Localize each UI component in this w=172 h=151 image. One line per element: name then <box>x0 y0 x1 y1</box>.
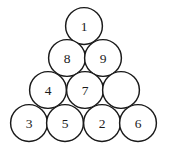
circle-label-2: 2 <box>99 116 106 131</box>
circle-label-3: 3 <box>26 116 33 131</box>
circle-label-8: 8 <box>64 51 71 66</box>
circle-label-6: 6 <box>135 116 142 131</box>
figure-root: 189473526 <box>0 0 172 151</box>
circle-label-4: 4 <box>45 83 52 98</box>
circle-row-1: 1 <box>66 8 103 45</box>
circle-row-4: 3526 <box>11 105 157 142</box>
circle-label-7: 7 <box>82 83 89 98</box>
circle-empty-r3-c3 <box>103 72 140 109</box>
circle-stack-diagram: 189473526 <box>0 0 172 151</box>
circle-label-1: 1 <box>81 19 88 34</box>
circle-label-5: 5 <box>62 116 69 131</box>
circle-label-9: 9 <box>100 51 107 66</box>
circle-row-3: 47 <box>30 72 140 109</box>
